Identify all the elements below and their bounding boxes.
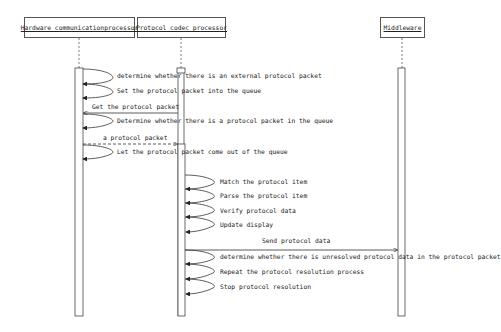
message-label: Stop protocol resolution xyxy=(220,284,311,290)
activation-codec xyxy=(178,144,185,316)
message-label: determine whether there is an external p… xyxy=(117,73,322,79)
message-label: Determine whether there is a protocol pa… xyxy=(117,118,333,124)
message-label: Send protocol data xyxy=(262,238,330,244)
message-label: a protocol packet xyxy=(103,135,167,141)
activation-hw xyxy=(75,68,83,316)
message-label: determine whether there is unresolved pr… xyxy=(220,254,501,260)
message-label: Set the protocol packet into the queue xyxy=(117,88,261,94)
message-label: Get the protocol packet xyxy=(92,104,179,110)
participant-protocol-codec-processor: Protocol codec processor xyxy=(137,17,226,38)
self-messages-hw xyxy=(83,69,113,159)
participant-hardware-communication-processor: Hardware communicationprocessor xyxy=(24,17,135,38)
message-label: Parse the protocol item xyxy=(220,193,307,199)
activation-mw xyxy=(398,68,405,316)
message-label: Update display xyxy=(220,222,273,228)
message-label: Let the protocol packet come out of the … xyxy=(117,149,288,155)
self-messages-codec xyxy=(185,175,214,294)
message-label: Verify protocol data xyxy=(220,208,296,214)
message-label: Match the protocol item xyxy=(220,179,307,185)
message-label: Repeat the protocol resolution process xyxy=(220,269,364,275)
participant-middleware: Middleware xyxy=(380,17,425,38)
